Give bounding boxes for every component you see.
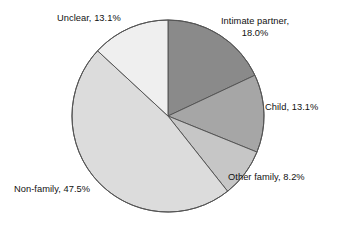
pie-chart: Intimate partner, 18.0% Child, 13.1% Oth…: [0, 0, 349, 229]
pie-label-other-family: Other family, 8.2%: [228, 172, 305, 184]
pie-label-child: Child, 13.1%: [265, 102, 318, 114]
pie-label-intimate-partner: Intimate partner, 18.0%: [205, 16, 305, 39]
pie-label-unclear: Unclear, 13.1%: [57, 13, 121, 25]
pie-label-non-family: Non-family, 47.5%: [14, 184, 90, 196]
